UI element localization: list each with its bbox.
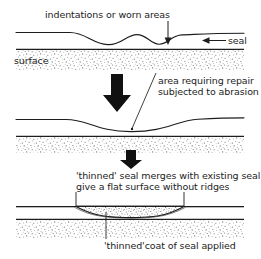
label-seal: seal bbox=[228, 35, 247, 46]
surface-band-1 bbox=[16, 49, 244, 70]
label-thinned-coat-applied: 'thinned'coat of seal applied bbox=[104, 240, 236, 251]
seal-repair-diagram bbox=[0, 0, 261, 259]
surface-band-3 bbox=[16, 219, 244, 238]
label-surface: surface bbox=[14, 55, 48, 66]
label-thinned-seal-merges-line1: 'thinned' seal merges with existing seal… bbox=[76, 170, 261, 181]
leader-dot-area bbox=[131, 128, 133, 130]
label-area-requiring-repair-line1: area requiring repair bbox=[158, 75, 254, 86]
label-area-requiring-repair-line2: subjected to abrasion bbox=[158, 86, 259, 97]
label-thinned-seal-merges-line2: give a flat surface without ridges bbox=[76, 181, 229, 192]
label-indentations: indentations or worn areas bbox=[45, 9, 170, 20]
